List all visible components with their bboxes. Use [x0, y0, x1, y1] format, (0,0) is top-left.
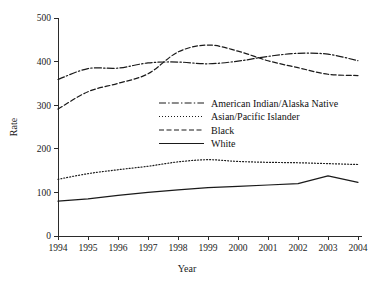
x-tick-label: 1996	[109, 243, 128, 253]
y-tick-label: 400	[37, 57, 52, 67]
x-tick-label: 1999	[199, 243, 218, 253]
legend-label: White	[211, 138, 236, 149]
y-tick-label: 300	[37, 101, 52, 111]
line-chart: 0100200300400500 19941995199619971998199…	[0, 0, 375, 284]
x-tick-label: 1998	[169, 243, 188, 253]
y-tick-label: 500	[37, 13, 52, 23]
y-tick-label: 100	[37, 188, 52, 198]
series-line	[58, 176, 358, 201]
legend-label: Asian/Pacific Islander	[211, 111, 300, 122]
x-axis-ticks: 1994199519961997199819992000200120022003…	[49, 236, 368, 253]
x-tick-label: 2004	[349, 243, 368, 253]
x-tick-label: 2000	[229, 243, 248, 253]
x-tick-label: 1994	[49, 243, 68, 253]
x-axis-title: Year	[178, 263, 197, 274]
legend-label: Black	[211, 125, 234, 136]
series-group	[58, 45, 358, 201]
x-tick-label: 1995	[79, 243, 98, 253]
chart-container: 0100200300400500 19941995199619971998199…	[0, 0, 375, 284]
chart-legend: American Indian/Alaska NativeAsian/Pacif…	[159, 98, 339, 150]
series-line	[58, 53, 358, 79]
legend-label: American Indian/Alaska Native	[211, 98, 339, 109]
y-tick-label: 0	[46, 231, 51, 241]
x-tick-label: 2001	[259, 243, 278, 253]
x-tick-label: 2003	[319, 243, 338, 253]
x-tick-label: 2002	[289, 243, 308, 253]
series-line	[58, 160, 358, 180]
y-axis-title: Rate	[8, 117, 19, 136]
y-axis-ticks: 0100200300400500	[37, 13, 58, 241]
y-tick-label: 200	[37, 144, 52, 154]
x-tick-label: 1997	[139, 243, 158, 253]
